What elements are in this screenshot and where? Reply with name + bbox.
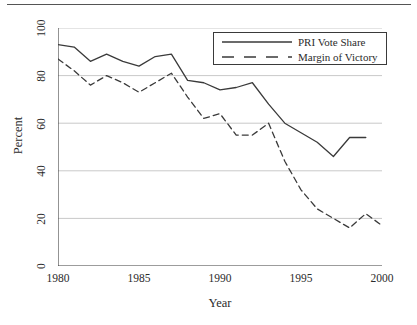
legend-line-dashed-icon	[220, 50, 294, 64]
x-tick-label-1985: 1985	[116, 272, 162, 284]
legend-label-pri-vote-share: PRI Vote Share	[294, 36, 365, 48]
x-tick-label-1990: 1990	[197, 272, 243, 284]
y-tick-label-100: 100	[35, 13, 47, 43]
legend-swatch-solid	[220, 35, 294, 49]
y-tick-label-20: 20	[35, 204, 47, 234]
y-tick-label-40: 40	[35, 156, 47, 186]
legend-label-margin-of-victory: Margin of Victory	[294, 51, 378, 63]
legend-line-solid-icon	[220, 35, 294, 49]
legend-entry-pri-vote-share: PRI Vote Share	[214, 34, 386, 49]
top-rule-divider	[7, 4, 411, 5]
x-tick-label-2000: 2000	[359, 272, 405, 284]
x-tick-label-1980: 1980	[35, 272, 81, 284]
series-layer	[58, 45, 382, 228]
legend-entry-margin-of-victory: Margin of Victory	[214, 49, 386, 64]
legend-swatch-dashed	[220, 50, 294, 64]
series-line-margin-of-victory	[58, 59, 382, 228]
y-tick-label-80: 80	[35, 61, 47, 91]
y-axis-title: Percent	[11, 101, 26, 171]
chart-figure: Percent Year 100 80 60 40 20 0 1980 1985…	[0, 0, 417, 325]
x-axis-title: Year	[58, 296, 382, 311]
y-tick-label-60: 60	[35, 109, 47, 139]
x-tick-label-1995: 1995	[278, 272, 324, 284]
legend-box: PRI Vote Share Margin of Victory	[213, 32, 387, 65]
